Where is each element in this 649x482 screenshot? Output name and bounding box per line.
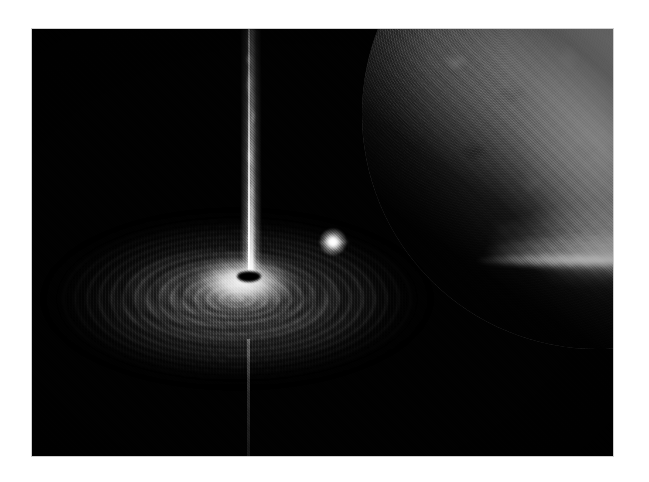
accretion-disk-striations bbox=[42, 211, 432, 387]
star-terminator-shadow bbox=[362, 29, 613, 349]
astronomy-illustration: Artist's illustration of a black hole X-… bbox=[32, 29, 613, 456]
jet-knots bbox=[239, 31, 263, 271]
relativistic-jet bbox=[240, 29, 262, 281]
black-hole bbox=[237, 271, 261, 282]
accretion-disk-rings bbox=[42, 211, 432, 387]
companion-star bbox=[362, 29, 613, 349]
star-granulation-texture bbox=[362, 29, 613, 349]
hotspot-flare bbox=[312, 237, 356, 247]
jet-core bbox=[248, 29, 250, 279]
halftone-grain-overlay bbox=[32, 29, 613, 456]
page-canvas: Artist's illustration of a black hole X-… bbox=[0, 0, 649, 482]
accretion-disk-lanes bbox=[42, 211, 432, 387]
stream-upper-flare bbox=[412, 89, 613, 279]
accretion-disk-inner-glow bbox=[182, 251, 302, 313]
counter-jet bbox=[247, 339, 250, 456]
accretion-disk-halo bbox=[37, 204, 437, 394]
star-speckle-texture bbox=[362, 29, 613, 349]
accretion-stream-wisps bbox=[362, 169, 613, 319]
accretion-stream bbox=[320, 179, 613, 319]
vignette-overlay bbox=[32, 29, 613, 456]
star-limb-glow bbox=[392, 29, 613, 319]
impact-hotspot bbox=[320, 229, 346, 255]
